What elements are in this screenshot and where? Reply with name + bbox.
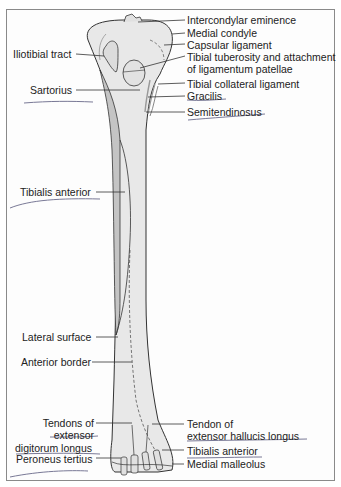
label-sartorius: Sartorius — [30, 84, 72, 96]
label-tendons-edl: Tendons of — [36, 417, 94, 429]
label-tendon-ehl-line2: extensor hallucis longus — [187, 430, 299, 442]
label-tibial-collateral-ligament: Tibial collateral ligament — [187, 78, 299, 90]
label-tendon-ehl: Tendon of — [187, 418, 233, 430]
label-medial-malleolus: Medial malleolus — [187, 458, 265, 470]
label-tibialis-anterior-tendon: Tibialis anterior — [187, 445, 258, 457]
label-semitendinosus: Semitendinosus — [187, 106, 262, 118]
label-gracilis: Gracilis — [187, 90, 222, 102]
label-tibialis-anterior: Tibialis anterior — [20, 186, 91, 198]
label-intercondylar-eminence: Intercondylar eminence — [187, 14, 296, 26]
label-tibial-tuberosity: Tibial tuberosity and attachment — [187, 51, 335, 63]
label-medial-condyle: Medial condyle — [187, 27, 257, 39]
label-tibial-tuberosity-line2: of ligamentum patellae — [187, 63, 293, 75]
label-capsular-ligament: Capsular ligament — [187, 39, 272, 51]
label-tendons-edl-line2: extensor — [36, 429, 94, 441]
label-anterior-border: Anterior border — [21, 356, 91, 368]
label-peroneus-tertius: Peroneus tertius — [16, 453, 92, 465]
tibia-bone — [87, 14, 173, 475]
label-iliotibial-tract: Iliotibial tract — [13, 48, 71, 60]
label-lateral-surface: Lateral surface — [22, 331, 91, 343]
